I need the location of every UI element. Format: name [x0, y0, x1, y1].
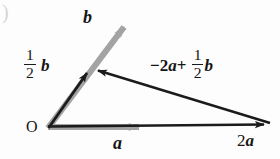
fraction-denominator: 2	[24, 65, 36, 81]
combination-plus-sign: +	[177, 56, 187, 75]
combination-fraction-one-half: 1 2	[192, 47, 204, 81]
combination-fraction-numerator: 1	[192, 47, 204, 63]
combination-minus-two: −2	[150, 56, 168, 75]
label-b: b	[83, 8, 92, 26]
combination-fraction-denominator: 2	[192, 65, 204, 81]
vector-half-b-line	[49, 73, 88, 128]
vector-diagram: ) 1 2 b b −2a+	[0, 0, 280, 159]
label-a: a	[113, 134, 122, 152]
combination-vector-a: a	[168, 56, 177, 75]
label-half-b-vector: b	[41, 56, 50, 75]
label-combination: −2a+ 1 2 b	[150, 47, 213, 81]
label-origin: O	[26, 119, 38, 135]
fraction-one-half: 1 2	[24, 47, 36, 81]
label-half-b: 1 2 b	[23, 47, 50, 81]
combination-vector-b: b	[204, 56, 213, 75]
label-two-a: 2a	[237, 132, 254, 149]
fraction-numerator: 1	[24, 47, 36, 63]
